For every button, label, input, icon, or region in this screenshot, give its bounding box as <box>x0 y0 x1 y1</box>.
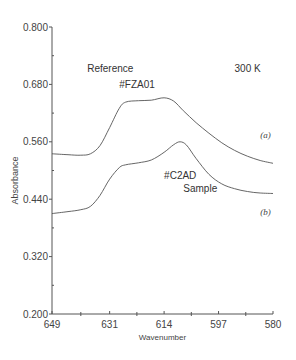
annotation-fza01: #FZA01 <box>119 79 155 90</box>
y-tick-label: 0.200 <box>23 309 48 320</box>
chart-series <box>52 98 273 214</box>
chart-labels: 0.8000.6800.5600.4400.3200.2006496316145… <box>10 22 282 343</box>
y-tick-label: 0.680 <box>23 79 48 90</box>
y-tick-label: 0.560 <box>23 136 48 147</box>
x-tick-label: 580 <box>265 319 282 330</box>
y-tick-label: 0.800 <box>23 22 48 33</box>
annotation-reference: Reference <box>87 63 134 74</box>
y-tick-label: 0.440 <box>23 194 48 205</box>
x-tick-label: 631 <box>101 319 118 330</box>
annotation-b: (b) <box>260 207 271 217</box>
x-tick-label: 614 <box>156 319 173 330</box>
y-tick-label: 0.320 <box>23 251 48 262</box>
y-axis-title: Absorbance <box>10 156 20 204</box>
x-tick-label: 597 <box>210 319 227 330</box>
x-tick-label: 649 <box>44 319 61 330</box>
absorbance-chart: 0.8000.6800.5600.4400.3200.2006496316145… <box>0 0 296 360</box>
annotation-c2ad: #C2AD <box>164 170 196 181</box>
x-axis-title: Wavenumber <box>139 333 187 342</box>
annotation-sample: Sample <box>183 183 217 194</box>
annotation-300-k: 300 K <box>235 63 261 74</box>
annotation-a: (a) <box>260 130 271 140</box>
